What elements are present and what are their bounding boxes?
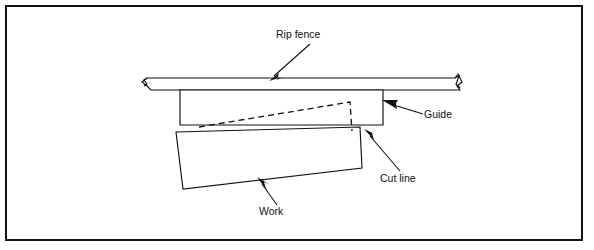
label-guide: Guide (424, 108, 452, 120)
guide-arrowhead (382, 100, 398, 109)
guide-block-shape (180, 90, 383, 125)
cut-line-leader-line (370, 136, 400, 171)
guide-leader-line (397, 106, 423, 114)
cut-line-leader (364, 129, 400, 171)
guide-leader (382, 100, 423, 114)
rip-fence-diagram: Rip fence Guide Cut line Work (0, 0, 594, 250)
guide-block-outline (180, 90, 383, 125)
label-cut-line: Cut line (380, 172, 416, 184)
label-rip-fence: Rip fence (276, 28, 321, 40)
rip-fence-body (142, 74, 462, 90)
work-piece-outline (176, 127, 362, 189)
work-piece-shape (176, 127, 362, 189)
work-leader-line (262, 184, 277, 205)
rip-fence-leader-line (274, 44, 310, 76)
figure-container: Rip fence Guide Cut line Work (0, 0, 594, 250)
rip-fence-leader (269, 44, 310, 81)
label-work: Work (259, 205, 284, 217)
rip-fence-shape (142, 74, 462, 90)
work-leader (257, 177, 277, 205)
cut-line-arrowhead (364, 129, 377, 140)
